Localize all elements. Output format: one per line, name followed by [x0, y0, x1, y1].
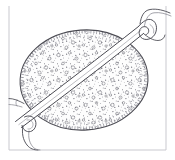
line-drawing-canvas [0, 0, 175, 160]
vesicle-layer [18, 28, 152, 134]
lower-tail [22, 126, 40, 150]
spur-lower-line [9, 105, 22, 108]
ovoid-texture [18, 28, 152, 134]
upper-coil [139, 19, 166, 40]
tail-left-line [22, 126, 38, 150]
tail-right-line [29, 131, 40, 150]
figure-panel: Stippled ovoid body with diagonal band a… [0, 0, 175, 160]
left-spur [9, 99, 24, 108]
coil-inner-hint [150, 25, 154, 34]
spur-upper-line [9, 99, 24, 104]
